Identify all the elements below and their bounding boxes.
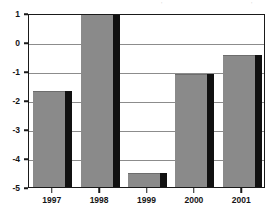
bar-shadow <box>113 14 120 187</box>
scan-artifact-right: ' <box>251 1 252 8</box>
x-tick-mark <box>51 188 53 193</box>
x-tick-mark <box>146 188 148 193</box>
bar-body <box>128 173 160 188</box>
bar-chart: ' ' 10-1-2-3-4-5 19971998199920002001 <box>0 0 273 215</box>
bar-2000 <box>175 74 214 187</box>
x-tick-label-1998: 1998 <box>90 195 109 205</box>
bar-shadow <box>255 55 262 187</box>
x-tick-label-1997: 1997 <box>42 195 61 205</box>
y-tick-label: -5 <box>12 183 20 193</box>
x-tick-mark <box>193 188 195 193</box>
gridline <box>29 44 264 45</box>
x-tick-mark <box>98 188 100 193</box>
bar-1997 <box>33 91 72 187</box>
y-tick-label: -1 <box>12 67 20 77</box>
y-axis: 10-1-2-3-4-5 <box>0 0 28 215</box>
x-tick-mark <box>241 188 243 193</box>
bar-body <box>33 91 65 187</box>
x-tick-label-1999: 1999 <box>137 195 156 205</box>
bar-body <box>175 74 207 187</box>
bar-body <box>223 55 255 187</box>
y-tick-label: -3 <box>12 125 20 135</box>
y-tick-label: 1 <box>15 9 20 19</box>
bar-shadow <box>160 173 167 188</box>
y-tick-label: -2 <box>12 96 20 106</box>
bar-shadow <box>207 74 214 187</box>
x-tick-label-2000: 2000 <box>184 195 203 205</box>
y-tick-label: -4 <box>12 154 20 164</box>
x-tick-label-2001: 2001 <box>232 195 251 205</box>
bar-2001 <box>223 55 262 187</box>
y-tick-label: 0 <box>15 38 20 48</box>
bar-1998 <box>81 14 120 187</box>
plot-area <box>28 14 265 188</box>
bar-body <box>81 14 113 187</box>
bar-1999 <box>128 173 167 188</box>
bar-shadow <box>65 91 72 187</box>
scan-artifact-left: ' <box>161 1 162 8</box>
